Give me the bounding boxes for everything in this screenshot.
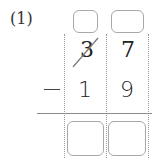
column-guide-right: [148, 34, 149, 158]
subtrahend-tens-digit: 1: [70, 78, 100, 102]
column-guide-left: [64, 34, 65, 158]
subtrahend-ones-digit: 9: [112, 78, 142, 102]
minuend-ones-digit: 7: [113, 38, 143, 62]
answer-box-ones[interactable]: [108, 121, 146, 156]
strike-through-icon: [70, 36, 102, 70]
minus-sign-icon: [44, 89, 60, 90]
column-guide-middle: [106, 34, 107, 158]
borrow-box-ones[interactable]: [111, 10, 144, 33]
borrow-box-tens[interactable]: [73, 10, 98, 33]
answer-box-tens[interactable]: [67, 121, 104, 156]
result-line: [37, 113, 152, 114]
problem-number-label: (1): [10, 9, 33, 28]
